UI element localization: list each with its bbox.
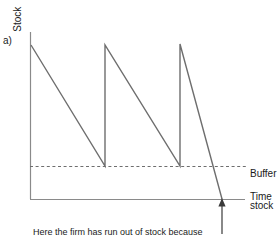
buffer-stock-label-line2: stock: [250, 201, 277, 212]
buffer-stock-label: Buffer stock: [250, 148, 277, 232]
part-label: a): [3, 36, 12, 47]
stockout-caption: Here the firm has run out of stock becau…: [33, 227, 203, 235]
stock-level-line: [31, 44, 222, 199]
stock-control-diagram: a) Stock Time Buffer stock Here the firm…: [0, 0, 280, 235]
buffer-stock-label-line1: Buffer: [250, 169, 277, 180]
y-axis-label: Stock: [13, 0, 24, 41]
diagram-canvas: [0, 0, 280, 235]
